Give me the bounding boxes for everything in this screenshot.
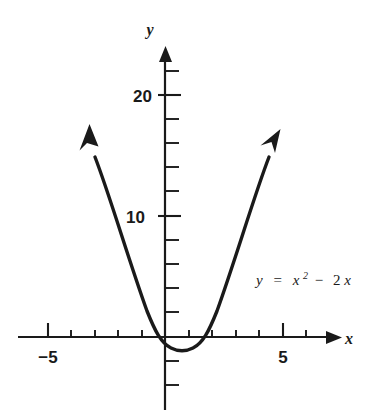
svg-text:y = x 2: y = x 2 − 2 x (254, 266, 351, 288)
equation-exponent: 2 (303, 270, 308, 281)
y-axis-label: y (144, 21, 154, 39)
equation-coefficient: 2 (333, 272, 341, 288)
y-tick-label-twenty: 20 (133, 87, 152, 106)
parabola-figure: y x −5 5 20 10 y = x 2 − 2 x (0, 0, 373, 413)
equation-equals: = (273, 272, 281, 288)
curve-left-arrow-icon (80, 124, 99, 151)
parabola-curve (95, 157, 269, 351)
x-tick-label-five: 5 (278, 348, 287, 367)
equation-var-one: x (292, 272, 300, 288)
y-axis-arrow-icon (159, 46, 172, 62)
x-axis-arrow-icon (326, 331, 342, 344)
equation-minus: − (315, 272, 323, 288)
equation-var-two: x (343, 272, 351, 288)
x-axis-label: x (344, 330, 353, 347)
equation-annotation: y = x 2 − 2 x (254, 266, 351, 288)
y-axis-major-ticks (158, 95, 181, 216)
x-tick-label-negative-five: −5 (38, 348, 57, 367)
y-tick-label-ten: 10 (126, 208, 145, 227)
equation-lhs: y (254, 272, 263, 288)
curve-right-arrow-icon (261, 129, 281, 153)
